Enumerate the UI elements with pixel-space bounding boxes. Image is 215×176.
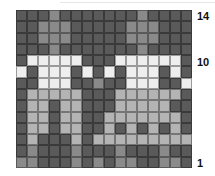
grid-cell-r2-c14 bbox=[159, 145, 170, 156]
grid-cell-r13-c3 bbox=[38, 21, 49, 32]
grid-cell-r12-c6 bbox=[71, 33, 82, 44]
grid-cell-r11-c15 bbox=[170, 44, 181, 55]
grid-cell-r6-c4 bbox=[49, 100, 60, 111]
grid-cell-r6-c13 bbox=[148, 100, 159, 111]
grid-cell-r2-c13 bbox=[148, 145, 159, 156]
grid-cell-r7-c7 bbox=[82, 89, 93, 100]
grid-cell-r14-c5 bbox=[60, 10, 71, 21]
grid-cell-r1-c9 bbox=[104, 157, 115, 168]
grid-cell-r11-c6 bbox=[71, 44, 82, 55]
grid-cell-r1-c7 bbox=[82, 157, 93, 168]
grid-cell-r13-c1 bbox=[16, 21, 27, 32]
grid-cell-r4-c12 bbox=[137, 123, 148, 134]
grid-cell-r4-c7 bbox=[82, 123, 93, 134]
grid-cell-r1-c13 bbox=[148, 157, 159, 168]
grid-cell-r14-c8 bbox=[93, 10, 104, 21]
grid-cell-r8-c8 bbox=[93, 78, 104, 89]
grid-cell-r12-c1 bbox=[16, 33, 27, 44]
grid-cell-r13-c6 bbox=[71, 21, 82, 32]
grid-cell-r10-c16 bbox=[181, 55, 192, 66]
grid-cell-r5-c16 bbox=[181, 112, 192, 123]
grid-cell-r4-c10 bbox=[115, 123, 126, 134]
grid-cell-r3-c13 bbox=[148, 134, 159, 145]
grid-cell-r11-c16 bbox=[181, 44, 192, 55]
grid-cell-r13-c9 bbox=[104, 21, 115, 32]
grid-cell-r9-c8 bbox=[93, 66, 104, 77]
grid-cell-r11-c7 bbox=[82, 44, 93, 55]
grid-cell-r5-c10 bbox=[115, 112, 126, 123]
grid-cell-r13-c5 bbox=[60, 21, 71, 32]
grid-cell-r4-c3 bbox=[38, 123, 49, 134]
grid-cell-r6-c1 bbox=[16, 100, 27, 111]
grid-cell-r7-c14 bbox=[159, 89, 170, 100]
grid-cell-r4-c1 bbox=[16, 123, 27, 134]
grid-cell-r8-c4 bbox=[49, 78, 60, 89]
grid-cell-r7-c6 bbox=[71, 89, 82, 100]
grid-cell-r14-c10 bbox=[115, 10, 126, 21]
grid-cell-r1-c6 bbox=[71, 157, 82, 168]
grid-cell-r2-c2 bbox=[27, 145, 38, 156]
grid-cell-r8-c15 bbox=[170, 78, 181, 89]
grid-cell-r9-c7 bbox=[82, 66, 93, 77]
grid-cell-r5-c15 bbox=[170, 112, 181, 123]
grid-cell-r8-c9 bbox=[104, 78, 115, 89]
grid-cell-r14-c15 bbox=[170, 10, 181, 21]
grid-cell-r12-c8 bbox=[93, 33, 104, 44]
grid-cell-r11-c14 bbox=[159, 44, 170, 55]
grid-cell-r1-c2 bbox=[27, 157, 38, 168]
pixel-grid bbox=[16, 10, 192, 168]
grid-cell-r3-c5 bbox=[60, 134, 71, 145]
grid-cell-r14-c11 bbox=[126, 10, 137, 21]
grid-cell-r12-c4 bbox=[49, 33, 60, 44]
grid-cell-r11-c13 bbox=[148, 44, 159, 55]
grid-cell-r5-c2 bbox=[27, 112, 38, 123]
grid-cell-r10-c15 bbox=[170, 55, 181, 66]
grid-cell-r7-c4 bbox=[49, 89, 60, 100]
grid-cell-r11-c10 bbox=[115, 44, 126, 55]
grid-cell-r5-c9 bbox=[104, 112, 115, 123]
grid-cell-r4-c14 bbox=[159, 123, 170, 134]
grid-cell-r1-c14 bbox=[159, 157, 170, 168]
grid-cell-r10-c5 bbox=[60, 55, 71, 66]
grid-cell-r6-c9 bbox=[104, 100, 115, 111]
grid-cell-r11-c3 bbox=[38, 44, 49, 55]
grid-cell-r11-c2 bbox=[27, 44, 38, 55]
grid-cell-r9-c5 bbox=[60, 66, 71, 77]
grid-cell-r5-c6 bbox=[71, 112, 82, 123]
grid-cell-r10-c4 bbox=[49, 55, 60, 66]
grid-cell-r5-c8 bbox=[93, 112, 104, 123]
grid-cell-r7-c9 bbox=[104, 89, 115, 100]
grid-cell-r10-c1 bbox=[16, 55, 27, 66]
grid-cell-r12-c2 bbox=[27, 33, 38, 44]
grid-cell-r4-c15 bbox=[170, 123, 181, 134]
grid-cell-r6-c12 bbox=[137, 100, 148, 111]
grid-cell-r11-c8 bbox=[93, 44, 104, 55]
grid-cell-r12-c10 bbox=[115, 33, 126, 44]
grid-cell-r7-c3 bbox=[38, 89, 49, 100]
grid-cell-r14-c12 bbox=[137, 10, 148, 21]
grid-cell-r6-c10 bbox=[115, 100, 126, 111]
grid-cell-r10-c10 bbox=[115, 55, 126, 66]
grid-cell-r7-c2 bbox=[27, 89, 38, 100]
grid-cell-r13-c13 bbox=[148, 21, 159, 32]
grid-cell-r4-c4 bbox=[49, 123, 60, 134]
grid-cell-r6-c15 bbox=[170, 100, 181, 111]
grid-cell-r6-c7 bbox=[82, 100, 93, 111]
grid-cell-r9-c10 bbox=[115, 66, 126, 77]
grid-cell-r12-c5 bbox=[60, 33, 71, 44]
grid-cell-r3-c9 bbox=[104, 134, 115, 145]
grid-cell-r3-c12 bbox=[137, 134, 148, 145]
grid-cell-r8-c1 bbox=[16, 78, 27, 89]
grid-cell-r14-c7 bbox=[82, 10, 93, 21]
grid-cell-r1-c11 bbox=[126, 157, 137, 168]
grid-cell-r2-c10 bbox=[115, 145, 126, 156]
grid-cell-r9-c16 bbox=[181, 66, 192, 77]
grid-cell-r3-c3 bbox=[38, 134, 49, 145]
grid-cell-r10-c3 bbox=[38, 55, 49, 66]
grid-cell-r1-c3 bbox=[38, 157, 49, 168]
grid-cell-r7-c16 bbox=[181, 89, 192, 100]
grid-cell-r14-c4 bbox=[49, 10, 60, 21]
grid-cell-r4-c8 bbox=[93, 123, 104, 134]
grid-cell-r10-c11 bbox=[126, 55, 137, 66]
grid-cell-r12-c7 bbox=[82, 33, 93, 44]
